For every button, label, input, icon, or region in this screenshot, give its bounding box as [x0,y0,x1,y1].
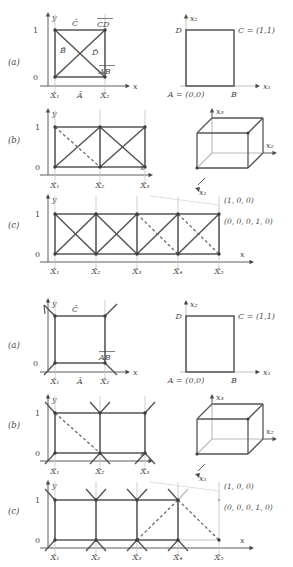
y-axis-arrow [184,300,188,305]
x-axis-arrow [126,370,131,374]
x-axis-label: x₁ [263,368,271,377]
node [94,538,97,541]
y-tick-1: 1 [35,123,40,132]
node [53,411,56,414]
cube-edge [197,404,212,419]
node-label-X2: X̂₂ [95,467,105,476]
x2-axis-label: x₂ [266,427,274,436]
whisker [86,540,96,551]
x-axis-label: x [240,536,245,545]
edge-label-C: Ĉ [72,305,78,314]
node [135,252,138,255]
node-label-X2: X̂₂ [91,553,101,562]
node-label-A: Ā [76,91,83,100]
x3-axis-label: x₃ [216,107,224,116]
x1-axis [198,464,205,471]
y-tick-0: 0 [35,250,40,259]
panel-b-full-left-plot: y x 1 0 X̂₁ X̂₂ X̂₃ [35,108,153,190]
whisker [127,540,137,551]
leader-line-1 [150,196,219,205]
cube-edge-hidden [197,153,212,168]
node [217,538,220,541]
annotation-1: (1, 0, 0) [224,482,254,491]
corner-label-D: D [175,26,183,35]
y-axis-arrow [46,194,50,199]
node-label-X5: X̂₅ [214,267,225,276]
unit-square [186,316,234,372]
whisker [44,363,55,375]
y-tick-1: 1 [35,496,40,505]
node-label-X2: X̂₂ [100,377,110,386]
node [217,212,220,215]
y-axis-arrow [46,108,50,113]
cube-edge [197,118,212,133]
y-axis-arrow [46,298,50,303]
cube-edge [248,404,263,419]
x2-axis-label: x₂ [266,141,274,150]
node [53,538,56,541]
y-axis-label: x₂ [190,300,198,309]
cube-edge [248,439,263,454]
y-tick-0: 0 [33,359,38,368]
x3-axis-arrow [210,394,214,399]
whisker [45,540,55,551]
y-axis-label: y [51,299,57,308]
whisker-faint [178,489,188,500]
node-label-X2: X̂₂ [100,91,110,100]
x-axis-arrow [250,546,255,550]
node-label-X3: X̂₃ [140,467,150,476]
corner-label-A: A = (0,0) [167,90,205,99]
whisker [178,540,188,551]
x-axis-label: x₁ [263,82,271,91]
node [53,212,56,215]
figure-root: (a) y x 1 0 Ĉ [0,0,293,567]
node [103,314,106,317]
panel-c-partial-left-plot: y x 1 0 [35,480,254,562]
node [98,411,101,414]
node-faint [218,499,221,502]
panel-c-partial: (c) y x 1 0 [8,480,273,562]
node [98,165,101,168]
node-label-X1: X̂₁ [50,553,60,562]
node [143,451,146,454]
x1-axis [198,178,205,185]
node [94,498,97,501]
cube-vertex [246,131,249,134]
whisker [86,489,96,500]
node-label-X1: X̂₁ [50,181,60,190]
y-tick-0: 0 [35,449,40,458]
node-label-X4: X̂₄ [173,553,183,562]
whisker [168,540,178,551]
x-axis-arrow [149,173,154,177]
whisker [90,402,100,413]
panel-c-full: (c) y x 1 0 [8,194,273,276]
cube-edge [248,118,263,133]
node-label-X5: X̂₅ [214,553,225,562]
whisker [105,304,117,316]
node-label-X1: X̂₁ [50,267,60,276]
node [176,498,179,501]
corner-label-B: B [230,376,237,385]
edge-label-AB-group: AB [98,66,115,77]
y-axis-label: y [51,481,57,490]
cube-edge [248,153,263,168]
x2-axis-arrow [273,437,278,441]
node [94,212,97,215]
node-label-X1: X̂₁ [50,377,60,386]
cube-edge-hidden [197,439,212,454]
leader-line-1 [150,482,219,491]
x-axis-label: x [133,368,138,377]
node [53,314,56,317]
node [53,28,56,31]
node [94,252,97,255]
node-label-X4: X̂₄ [173,267,183,276]
node-label-X2: X̂₂ [95,181,105,190]
whisker [105,363,117,375]
corner-label-A: A = (0,0) [167,376,205,385]
panel-b-full: (b) y x 1 0 [8,107,277,197]
whisker [100,453,110,464]
node-label-A: Ā [76,377,83,386]
panel-a-partial-left-plot: y x 0 Ĉ AB X̂₁ Ā X̂₂ [33,298,138,386]
node [135,538,138,541]
x-axis-arrow [250,260,255,264]
